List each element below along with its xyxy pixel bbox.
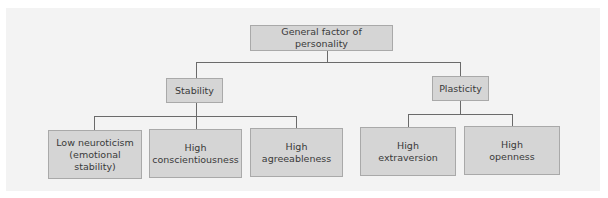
node-high-extraversion: High extraversion — [360, 127, 456, 176]
node-low-neuroticism: Low neuroticism (emotional stability) — [48, 130, 142, 179]
connector-to-stability — [196, 62, 197, 78]
node-general-factor: General factor of personality — [250, 25, 393, 51]
connector-stability-down — [196, 103, 197, 117]
connector-level1-horizontal — [196, 62, 461, 63]
node-label: General factor of personality — [254, 26, 389, 50]
connector-to-neuroticism — [94, 116, 95, 130]
node-label: High conscientiousness — [152, 142, 239, 166]
connector-plasticity-horizontal — [408, 114, 513, 115]
connector-to-agreeableness — [296, 116, 297, 128]
node-high-agreeableness: High agreeableness — [250, 128, 343, 177]
node-stability: Stability — [166, 78, 223, 103]
node-label: Plasticity — [439, 83, 482, 95]
connector-plasticity-down — [460, 101, 461, 115]
node-label: Stability — [175, 85, 214, 97]
connector-to-extraversion — [408, 114, 409, 127]
node-label: Low neuroticism (emotional stability) — [56, 137, 134, 173]
node-plasticity: Plasticity — [432, 76, 489, 101]
node-high-openness: High openness — [464, 126, 560, 175]
connector-to-openness — [512, 114, 513, 126]
node-label: High extraversion — [378, 140, 438, 164]
node-high-conscientiousness: High conscientiousness — [149, 129, 242, 178]
node-label: High openness — [489, 139, 534, 163]
node-label: High agreeableness — [262, 141, 331, 165]
connector-to-conscientiousness — [196, 116, 197, 129]
connector-to-plasticity — [460, 62, 461, 76]
